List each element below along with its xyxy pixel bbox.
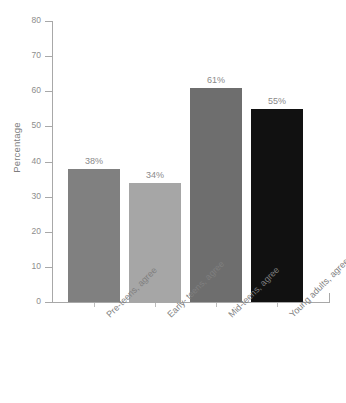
y-axis-tick-label: 20 <box>32 226 41 236</box>
x-axis-tick <box>277 303 278 307</box>
y-axis-tick-label: 50 <box>32 120 41 130</box>
bar-chart-figure: Percentage 01020304050607080 38%34%61%55… <box>0 0 346 403</box>
plot-area: 01020304050607080 38%34%61%55% <box>52 21 330 303</box>
y-axis-tick: 80 <box>45 21 52 22</box>
x-axis-tick <box>155 303 156 307</box>
y-axis-tick: 50 <box>45 126 52 127</box>
y-axis-tick-label: 40 <box>32 156 41 166</box>
y-axis-tick: 40 <box>45 162 52 163</box>
x-axis-tick <box>216 303 217 307</box>
x-axis-category-label: Early- teens, agree <box>165 312 172 319</box>
y-axis-tick-label: 30 <box>32 191 41 201</box>
x-axis-category-label: Pre-teens, agree <box>104 312 111 319</box>
y-axis-tick-label: 0 <box>36 296 41 306</box>
y-axis-tick-label: 70 <box>32 50 41 60</box>
x-axis-category-label: Young adults, agree <box>287 312 294 319</box>
x-axis-tick <box>94 303 95 307</box>
y-axis-title: Percentage <box>11 108 22 188</box>
y-axis-tick: 20 <box>45 232 52 233</box>
y-axis-tick-label: 60 <box>32 85 41 95</box>
y-axis-tick: 10 <box>45 267 52 268</box>
bar-value-label: 55% <box>268 96 286 106</box>
y-axis-tick: 0 <box>45 302 52 303</box>
bar-value-label: 61% <box>207 75 225 85</box>
x-axis-category-label: Mid-teens, agree <box>226 312 233 319</box>
bar[interactable]: 38% <box>68 169 120 302</box>
y-axis-tick: 60 <box>45 91 52 92</box>
y-axis-tick: 70 <box>45 56 52 57</box>
bar-value-label: 38% <box>85 156 103 166</box>
y-axis-line <box>52 21 53 303</box>
y-axis-tick-label: 10 <box>32 261 41 271</box>
bar-value-label: 34% <box>146 170 164 180</box>
x-axis-end-tick <box>329 293 330 303</box>
y-axis-tick: 30 <box>45 197 52 198</box>
y-axis-tick-label: 80 <box>32 15 41 25</box>
